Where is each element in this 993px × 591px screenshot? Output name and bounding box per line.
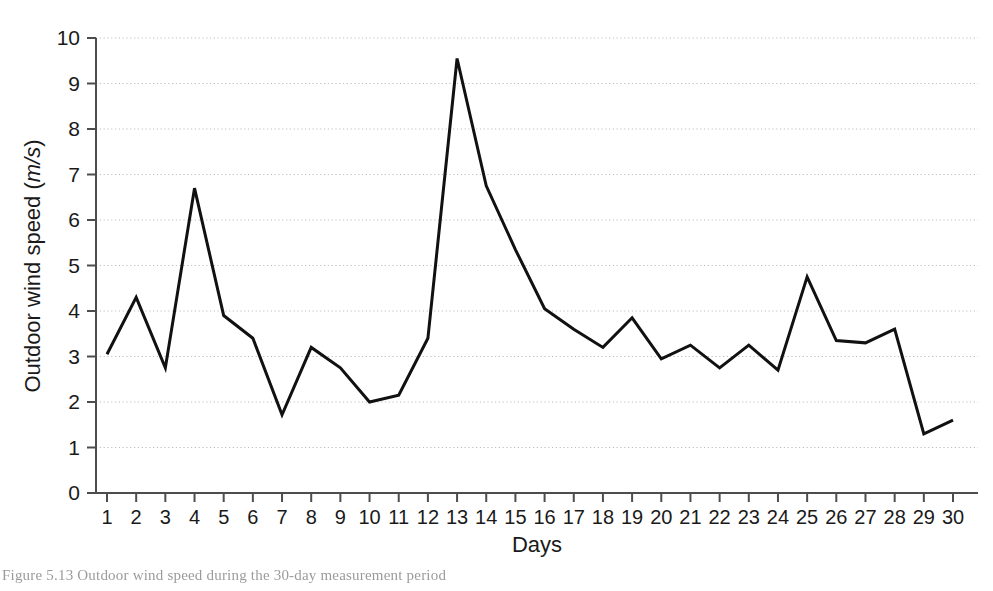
x-tick-label-22: 22: [708, 506, 730, 528]
x-tick-label-16: 16: [533, 506, 555, 528]
x-tick-label-5: 5: [218, 506, 229, 528]
y-axis-title-units: m/s: [20, 147, 45, 182]
y-tick-label-9: 9: [68, 72, 80, 95]
figure-root: 012345678910 123456789101112131415161718…: [0, 0, 993, 591]
x-tick-label-7: 7: [276, 506, 287, 528]
x-tick-label-24: 24: [767, 506, 789, 528]
x-axis-ticks: [107, 493, 953, 502]
x-tick-label-14: 14: [475, 506, 497, 528]
x-tick-label-11: 11: [388, 506, 409, 528]
x-tick-label-4: 4: [189, 506, 200, 528]
x-tick-label-8: 8: [306, 506, 317, 528]
x-tick-label-2: 2: [131, 506, 142, 528]
x-tick-label-12: 12: [417, 506, 439, 528]
y-tick-label-0: 0: [68, 481, 80, 504]
y-axis-ticks: [87, 38, 96, 493]
y-tick-label-1: 1: [68, 436, 80, 459]
x-tick-label-27: 27: [854, 506, 876, 528]
y-tick-label-10: 10: [57, 26, 80, 49]
y-tick-label-3: 3: [68, 345, 80, 368]
x-tick-label-1: 1: [101, 506, 112, 528]
x-tick-label-19: 19: [621, 506, 643, 528]
x-tick-label-29: 29: [913, 506, 935, 528]
y-tick-label-6: 6: [68, 208, 80, 231]
y-tick-label-2: 2: [68, 390, 80, 413]
x-tick-label-28: 28: [884, 506, 906, 528]
x-axis-tick-labels: 1234567891011121314151617181920212223242…: [101, 506, 964, 528]
y-axis-title-close: ): [20, 139, 45, 146]
x-tick-label-17: 17: [563, 506, 585, 528]
y-axis-title-plain: Outdoor wind speed (: [20, 182, 45, 393]
x-tick-label-23: 23: [738, 506, 760, 528]
x-tick-label-13: 13: [446, 506, 468, 528]
x-tick-label-18: 18: [592, 506, 614, 528]
y-tick-label-8: 8: [68, 117, 80, 140]
x-axis-title: Days: [512, 532, 562, 557]
x-tick-label-6: 6: [247, 506, 258, 528]
x-tick-label-3: 3: [160, 506, 171, 528]
x-tick-label-20: 20: [650, 506, 672, 528]
svg-text:Outdoor wind speed (m/s): Outdoor wind speed (m/s): [20, 139, 45, 392]
y-axis-title: Outdoor wind speed (m/s): [20, 139, 45, 392]
y-axis-tick-labels: 012345678910: [57, 26, 81, 504]
y-tick-label-5: 5: [68, 254, 80, 277]
x-tick-label-21: 21: [679, 506, 701, 528]
x-tick-label-15: 15: [504, 506, 526, 528]
y-tick-label-4: 4: [68, 299, 80, 322]
x-tick-label-10: 10: [358, 506, 380, 528]
x-tick-label-30: 30: [942, 506, 964, 528]
x-tick-label-26: 26: [825, 506, 847, 528]
x-tick-label-25: 25: [796, 506, 818, 528]
wind-speed-line-chart: 012345678910 123456789101112131415161718…: [0, 0, 993, 591]
data-series-line: [107, 58, 953, 433]
x-tick-label-9: 9: [335, 506, 346, 528]
y-tick-label-7: 7: [68, 163, 80, 186]
gridlines-group: [96, 38, 978, 448]
